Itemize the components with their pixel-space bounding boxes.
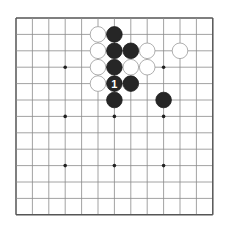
black-stone[interactable] bbox=[123, 43, 139, 59]
white-stone[interactable] bbox=[172, 43, 188, 59]
black-stone[interactable]: 1 bbox=[107, 76, 123, 92]
star-point bbox=[63, 65, 67, 69]
star-point bbox=[113, 164, 117, 168]
white-stone[interactable] bbox=[90, 59, 106, 75]
white-stone[interactable] bbox=[139, 43, 155, 59]
black-stone[interactable] bbox=[107, 43, 123, 59]
star-point bbox=[162, 164, 166, 168]
white-stone[interactable] bbox=[90, 27, 106, 43]
black-stone[interactable] bbox=[156, 92, 172, 108]
star-point bbox=[162, 65, 166, 69]
white-stone[interactable] bbox=[90, 43, 106, 59]
star-point bbox=[113, 115, 117, 119]
star-point bbox=[63, 164, 67, 168]
go-board[interactable]: 1 bbox=[0, 0, 226, 226]
white-stone[interactable] bbox=[123, 59, 139, 75]
white-stone[interactable] bbox=[90, 76, 106, 92]
black-stone[interactable] bbox=[107, 59, 123, 75]
white-stone[interactable] bbox=[139, 59, 155, 75]
star-point bbox=[63, 115, 67, 119]
black-stone[interactable] bbox=[107, 92, 123, 108]
black-stone[interactable] bbox=[107, 27, 123, 43]
move-number-label: 1 bbox=[111, 78, 117, 90]
star-point bbox=[162, 115, 166, 119]
black-stone[interactable] bbox=[123, 76, 139, 92]
